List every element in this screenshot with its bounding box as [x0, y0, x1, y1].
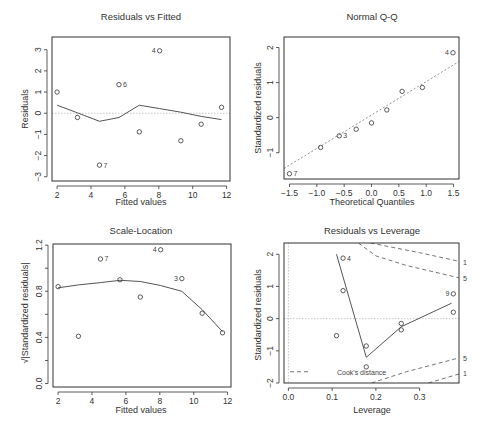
panel-title: Residuals vs Fitted [101, 11, 181, 22]
y-tick-label: −2 [265, 378, 275, 388]
y-tick-label: 1 [265, 284, 275, 289]
y-tick-label: 2 [33, 68, 43, 73]
legend-label: Cook's distance [337, 369, 386, 376]
y-tick-label: 0.0 [34, 377, 44, 389]
data-point [451, 310, 455, 314]
point-label: 4 [347, 255, 351, 262]
data-point [75, 115, 79, 119]
y-axis-label: Standardized residuals [253, 269, 263, 361]
data-point [97, 163, 101, 167]
cooks-distance-contour [358, 243, 459, 278]
data-point [354, 127, 358, 131]
qq-reference-line [284, 62, 459, 169]
x-tick-label: 2 [56, 396, 61, 406]
cooks-distance-contour [428, 374, 459, 383]
data-point [334, 333, 338, 337]
contour-label: 5 [463, 275, 467, 282]
data-point [158, 248, 162, 252]
x-tick-label: 0.5 [393, 188, 405, 198]
plot-frame [52, 37, 230, 181]
y-tick-label: 1 [33, 89, 43, 94]
data-point [341, 288, 345, 292]
panel-title: Residuals vs Leverage [324, 225, 420, 236]
x-tick-label: 12 [223, 396, 233, 406]
data-point [400, 89, 404, 93]
contour-label: 5 [463, 355, 467, 362]
point-label: 3 [174, 275, 178, 282]
normal-qq-panel: Normal Q-Q Theoretical Quantiles Standar… [253, 11, 460, 207]
data-point [55, 90, 59, 94]
x-tick-label: 12 [222, 190, 232, 200]
x-tick-label: 8 [157, 396, 162, 406]
x-tick-label: 1.5 [448, 188, 460, 198]
plot-frame [53, 244, 231, 387]
y-axis-label: Standardized residuals [253, 62, 263, 154]
data-point [200, 311, 204, 315]
data-point [118, 278, 122, 282]
x-tick-label: 4 [89, 190, 94, 200]
smoother-line [337, 254, 452, 357]
y-tick-label: 0 [265, 316, 275, 321]
y-tick-label: 0.8 [34, 285, 44, 297]
data-point [98, 257, 102, 261]
data-point [137, 130, 141, 134]
data-point [399, 328, 403, 332]
x-tick-label: 0.0 [366, 188, 378, 198]
panel-title: Normal Q-Q [346, 11, 397, 22]
x-tick-label: −1.5 [281, 188, 298, 198]
plot-frame [284, 37, 459, 179]
data-point [451, 292, 455, 296]
y-tick-label: 2 [265, 252, 275, 257]
y-axis-label: Residuals [20, 89, 30, 129]
x-tick-label: 2 [55, 190, 60, 200]
x-tick-label: 0.1 [326, 392, 338, 402]
panel-title: Scale-Location [110, 225, 173, 236]
x-tick-label: 4 [90, 396, 95, 406]
y-axis-label: √|Standardized residuals| [20, 262, 30, 363]
data-point [138, 295, 142, 299]
data-point [385, 108, 389, 112]
x-tick-label: 10 [188, 190, 198, 200]
residuals-vs-leverage-panel: Residuals vs Leverage Leverage Standardi… [253, 225, 467, 415]
y-tick-label: 1 [265, 80, 275, 85]
x-axis-label: Leverage [353, 405, 391, 415]
y-tick-label: 1.2 [34, 239, 44, 251]
contour-label: 1 [463, 370, 467, 377]
point-label: 4 [152, 47, 156, 54]
point-label: 4 [153, 246, 157, 253]
x-tick-label: 1.0 [420, 188, 432, 198]
y-tick-label: −2 [33, 150, 43, 160]
data-point [287, 172, 291, 176]
x-tick-label: 0.2 [370, 392, 382, 402]
data-point [451, 51, 455, 55]
residuals-vs-fitted-panel: Residuals vs Fitted Fitted values Residu… [20, 11, 232, 207]
point-label: 7 [103, 162, 107, 169]
x-tick-label: 0.0 [282, 392, 294, 402]
y-tick-label: −1 [265, 346, 275, 356]
data-point [219, 105, 223, 109]
point-label: 7 [293, 170, 297, 177]
y-tick-label: 2 [265, 45, 275, 50]
x-tick-label: 6 [123, 190, 128, 200]
y-tick-label: −3 [33, 172, 43, 182]
plot-frame [284, 243, 459, 383]
point-label: 6 [123, 81, 127, 88]
x-tick-label: −0.5 [336, 188, 353, 198]
smoother-line [58, 280, 222, 331]
x-tick-label: 0.3 [414, 392, 426, 402]
data-point [199, 122, 203, 126]
y-tick-label: −1 [265, 148, 275, 158]
y-tick-label: 3 [33, 47, 43, 52]
x-tick-label: −1.0 [308, 188, 325, 198]
x-axis-label: Theoretical Quantiles [329, 197, 415, 207]
x-tick-label: 10 [189, 396, 199, 406]
point-label: 9 [445, 290, 449, 297]
data-point [399, 321, 403, 325]
x-axis-label: Fitted values [115, 405, 167, 415]
point-label: 7 [104, 255, 108, 262]
data-point [56, 284, 60, 288]
y-tick-label: 0 [33, 111, 43, 116]
diagnostic-plots-figure: Residuals vs Fitted Fitted values Residu… [0, 0, 486, 434]
point-label: 3 [343, 132, 347, 139]
data-point [341, 256, 345, 260]
